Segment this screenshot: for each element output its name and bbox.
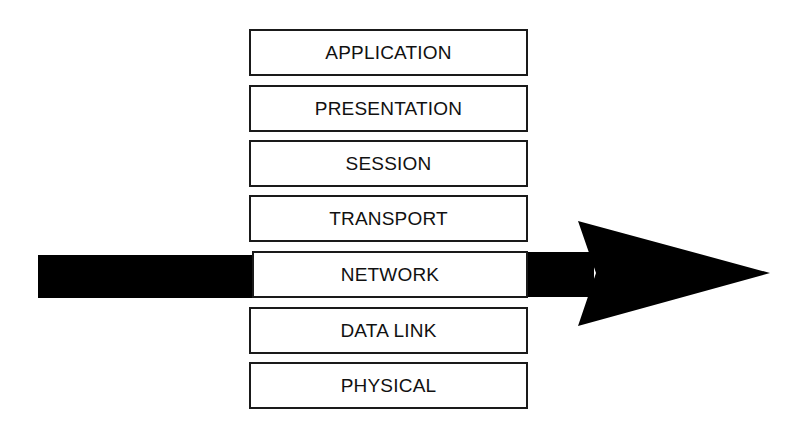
layer-label: APPLICATION — [325, 42, 451, 64]
layer-session: SESSION — [249, 140, 528, 187]
layer-label: PHYSICAL — [341, 375, 437, 397]
layer-label: DATA LINK — [340, 320, 436, 342]
layer-label: TRANSPORT — [329, 208, 448, 230]
layer-label: NETWORK — [341, 264, 440, 286]
layer-label: PRESENTATION — [315, 98, 462, 120]
layer-label: SESSION — [346, 153, 432, 175]
layer-application: APPLICATION — [249, 29, 528, 76]
layer-network: NETWORK — [252, 251, 528, 298]
layer-data-link: DATA LINK — [249, 307, 528, 354]
layer-presentation: PRESENTATION — [249, 85, 528, 132]
layer-physical: PHYSICAL — [249, 362, 528, 409]
layer-transport: TRANSPORT — [249, 195, 528, 242]
